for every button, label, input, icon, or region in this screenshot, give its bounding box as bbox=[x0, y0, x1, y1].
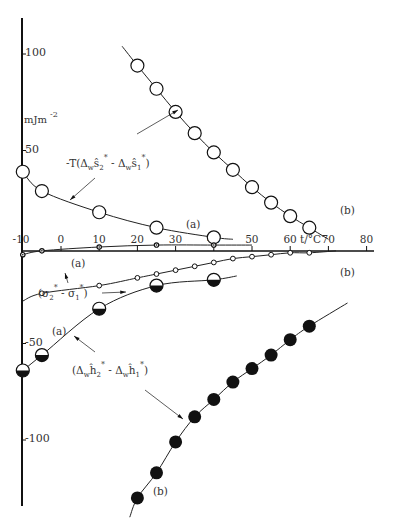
x-tick-label: 10 bbox=[92, 233, 105, 245]
small-open-circle-marker bbox=[231, 256, 236, 261]
small-open-circle-marker bbox=[135, 275, 140, 280]
arrow-sigma-a-head bbox=[65, 273, 68, 279]
x-tick-label: 60 bbox=[283, 233, 296, 245]
small-dot-center bbox=[213, 244, 215, 246]
entropy-term-label: -T(Δwŝ2* - Δwŝ1*) bbox=[66, 153, 150, 172]
label-sigma-b: (b) bbox=[340, 266, 355, 278]
enthalpy-term-label: (Δwĥ2* - Δwĥ1*) bbox=[72, 360, 148, 379]
sigma-term-label: (σ2* - σ1*) bbox=[38, 283, 88, 302]
filled-circle-marker bbox=[303, 320, 316, 333]
curves bbox=[23, 46, 348, 517]
filled-circle-marker bbox=[169, 435, 182, 448]
open-circle-marker bbox=[16, 165, 29, 178]
open-circle-marker bbox=[188, 127, 201, 140]
label-entropy-b: (b) bbox=[340, 204, 355, 216]
small-dot-center bbox=[22, 254, 24, 256]
label-enthalpy-a: (a) bbox=[52, 325, 66, 337]
x-tick-label: 50 bbox=[245, 233, 258, 245]
markers bbox=[16, 59, 316, 504]
half-filled-circle-fill bbox=[16, 371, 29, 378]
small-dot-center bbox=[41, 250, 43, 252]
small-open-circle-marker bbox=[173, 268, 178, 273]
arrow-sigma-b-head bbox=[120, 290, 126, 294]
curve-series-1 bbox=[23, 172, 233, 240]
y-tick-label: -50 bbox=[25, 336, 43, 349]
y-tick-label: 50 bbox=[25, 143, 39, 156]
label-sigma-a: (a) bbox=[71, 257, 85, 269]
open-circle-marker bbox=[131, 59, 144, 72]
label-entropy-a: (a) bbox=[186, 218, 200, 230]
half-filled-circle-fill bbox=[93, 309, 106, 316]
filled-circle-marker bbox=[246, 362, 259, 375]
x-tick-label: 80 bbox=[360, 233, 373, 245]
half-filled-circle-fill bbox=[207, 280, 220, 287]
open-circle-marker bbox=[150, 82, 163, 95]
open-circle-marker bbox=[226, 163, 239, 176]
small-open-circle-marker bbox=[154, 272, 159, 277]
arrow-enthalpy-a-head bbox=[74, 336, 80, 341]
filled-circle-marker bbox=[207, 393, 220, 406]
open-circle-marker bbox=[284, 210, 297, 223]
half-filled-circle-fill bbox=[35, 355, 48, 362]
open-circle-marker bbox=[93, 206, 106, 219]
small-open-circle-marker bbox=[211, 260, 216, 265]
x-tick-label: 0 bbox=[58, 233, 65, 245]
filled-circle-marker bbox=[226, 376, 239, 389]
open-circle-marker bbox=[35, 185, 48, 198]
half-filled-circle-fill bbox=[150, 286, 163, 293]
small-open-circle-marker bbox=[250, 254, 255, 259]
open-circle-marker bbox=[207, 231, 220, 244]
open-circle-marker bbox=[246, 181, 259, 194]
open-circle-marker bbox=[265, 196, 278, 209]
filled-circle-marker bbox=[150, 466, 163, 479]
open-circle-marker bbox=[150, 221, 163, 234]
x-tick-label: 20 bbox=[131, 233, 144, 245]
filled-circle-marker bbox=[284, 333, 297, 346]
annotations: -T(Δwŝ2* - Δwŝ1*)(a)(b)(a)(b)(σ2* - σ1*)… bbox=[38, 110, 355, 497]
x-tick-label: -10 bbox=[13, 233, 30, 245]
x-tick-label: 30 bbox=[169, 233, 182, 245]
small-dot-center bbox=[156, 244, 158, 246]
x-axis-unit: t/°C bbox=[300, 233, 321, 245]
small-dot-center bbox=[98, 246, 100, 248]
open-circle-marker bbox=[207, 146, 220, 159]
curve-series-0 bbox=[122, 46, 328, 239]
y-axis-unit-exponent: -2 bbox=[50, 110, 58, 119]
y-tick-label: 100 bbox=[25, 46, 46, 59]
axes: 10050-50-100mJm-2-1001020304050607080t/°… bbox=[13, 18, 374, 506]
filled-circle-marker bbox=[265, 349, 278, 362]
arrow-entropy-b bbox=[137, 110, 178, 134]
y-axis-unit: mJm bbox=[24, 114, 47, 125]
small-open-circle-marker bbox=[269, 252, 274, 257]
arrow-enthalpy-b bbox=[145, 390, 183, 419]
open-circle-marker bbox=[303, 221, 316, 234]
label-enthalpy-b: (b) bbox=[153, 485, 168, 497]
y-tick-label: -100 bbox=[25, 432, 50, 445]
filled-circle-marker bbox=[131, 491, 144, 504]
chart: 10050-50-100mJm-2-1001020304050607080t/°… bbox=[0, 0, 398, 529]
small-open-circle-marker bbox=[307, 250, 312, 255]
small-open-circle-marker bbox=[288, 250, 293, 255]
small-open-circle-marker bbox=[97, 283, 102, 288]
small-open-circle-marker bbox=[192, 264, 197, 269]
filled-circle-marker bbox=[188, 410, 201, 423]
